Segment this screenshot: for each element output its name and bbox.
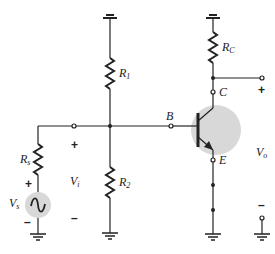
label-r1: R1 <box>119 67 130 81</box>
vs-plus-sign: + <box>25 178 32 190</box>
label-rs: Rs <box>20 153 30 167</box>
resistor-rs <box>34 144 42 175</box>
vi-terminal <box>72 124 76 128</box>
base-terminal <box>169 124 173 128</box>
resistor-r2 <box>106 167 114 198</box>
vs-minus-sign: – <box>24 216 31 228</box>
vi-minus-sign: – <box>71 212 78 224</box>
label-b: B <box>166 110 173 122</box>
label-e: E <box>219 154 226 166</box>
vi-plus-sign: + <box>71 139 78 151</box>
label-r2: R2 <box>119 176 130 190</box>
collector-terminal <box>211 90 215 94</box>
vo-minus-sign: – <box>258 199 265 211</box>
ground-output <box>254 234 270 240</box>
emitter-terminal <box>211 158 215 162</box>
junction-dot <box>108 124 112 128</box>
resistor-r1 <box>106 58 114 89</box>
vo-plus-sign: + <box>258 84 265 96</box>
vcc-symbol-rc <box>206 15 220 32</box>
label-vs: Vs <box>9 197 19 211</box>
label-rc: RC <box>222 41 235 55</box>
circuit-schematic <box>0 0 275 254</box>
ground-source <box>30 234 46 240</box>
label-vo: Vo <box>256 146 267 160</box>
vo-plus-terminal <box>260 76 264 80</box>
vo-minus-terminal <box>260 216 264 220</box>
ground-emitter <box>205 234 221 240</box>
circuit-diagram: R1 R2 RC Rs Vs + – B C E + Vi – + Vo – <box>0 0 275 254</box>
vcc-symbol-r1 <box>103 15 117 58</box>
label-vi: Vi <box>70 175 80 189</box>
label-c: C <box>219 86 227 98</box>
resistor-rc <box>209 32 217 63</box>
ground-r2 <box>102 233 118 239</box>
